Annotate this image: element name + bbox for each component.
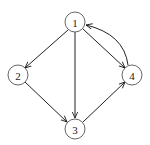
edge-4-to-1-curved: [86, 25, 128, 65]
node-1: 1: [65, 12, 85, 32]
node-4-label: 4: [129, 70, 135, 82]
node-3-label: 3: [72, 124, 78, 136]
node-2-label: 2: [15, 70, 21, 82]
directed-graph: 1 2 3 4: [0, 0, 150, 145]
node-2: 2: [8, 65, 28, 85]
node-1-label: 1: [72, 17, 78, 29]
edge-2-to-3: [25, 82, 67, 122]
node-3: 3: [65, 119, 85, 139]
edge-3-to-4: [83, 82, 125, 122]
edge-1-to-2: [25, 30, 68, 68]
edge-1-to-4: [83, 29, 125, 68]
node-4: 4: [122, 65, 142, 85]
